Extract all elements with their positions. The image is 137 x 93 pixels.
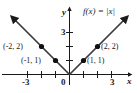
y-tick-label-3: 3 bbox=[61, 28, 66, 37]
point-label-neg1-1: (-1, 1) bbox=[21, 57, 41, 65]
point-label-2-2: (2, 2) bbox=[101, 43, 118, 51]
point-label-neg2-2: (-2, 2) bbox=[3, 43, 23, 51]
x-tick-label-neg3: -3 bbox=[22, 78, 30, 87]
x-tick-label-3: 3 bbox=[110, 78, 115, 87]
data-point-1-1 bbox=[81, 58, 86, 63]
function-expression-label: f(x) = |x| bbox=[83, 7, 115, 16]
y-axis-label: y bbox=[62, 8, 66, 17]
x-axis-label: x bbox=[127, 77, 132, 86]
data-point-2-2 bbox=[95, 44, 100, 49]
data-point-neg2-2 bbox=[39, 44, 44, 49]
point-label-1-1: (1, 1) bbox=[87, 57, 104, 65]
absolute-value-function-figure: f(x) = |x| y x -3 3 3 0 (-2, 2) (-1, 1) … bbox=[0, 0, 137, 93]
data-point-neg1-1 bbox=[53, 58, 58, 63]
origin-label: 0 bbox=[61, 78, 66, 87]
